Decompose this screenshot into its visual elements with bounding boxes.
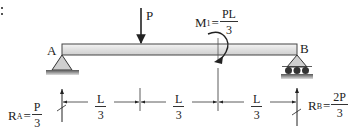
beam [62,44,297,55]
dimension-label-2: L 3 [173,93,184,121]
reaction-b-fraction: 2P 3 [331,91,348,119]
reaction-b-arrow-icon [292,88,301,126]
load-label: P [146,9,153,22]
dimension-label-1: L 3 [95,93,106,121]
corner-mark [1,7,3,15]
moment-label: M1= PL 3 [195,8,238,36]
label-b: B [300,42,309,55]
roller-support-icon [281,55,313,79]
label-a: A [47,44,56,57]
reaction-a-arrow-icon [57,89,66,122]
pin-support-icon [46,55,79,75]
moment-fraction: PL 3 [220,8,238,36]
dimension-label-3: L 3 [251,93,262,121]
reaction-a-fraction: P 3 [32,101,43,129]
reaction-b-label: RB= 2P 3 [308,91,348,119]
reaction-a-label: RA= P 3 [8,101,42,129]
